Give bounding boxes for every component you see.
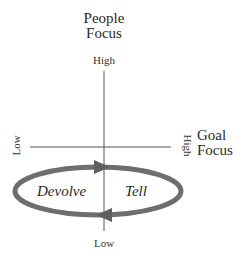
tell-label: Tell	[125, 184, 147, 199]
x-axis-low-label: Low	[11, 133, 22, 159]
y-axis-low-label: Low	[88, 238, 120, 249]
arrow-right-icon	[94, 160, 110, 174]
y-axis-title: People Focus	[64, 11, 144, 41]
y-axis-title-line2: Focus	[64, 26, 144, 41]
x-axis-title: Goal Focus	[197, 128, 233, 158]
y-axis-title-line1: People	[64, 11, 144, 26]
x-axis-high-label: High	[182, 131, 193, 161]
x-axis-title-line2: Focus	[197, 143, 233, 158]
y-axis-high-label: High	[88, 55, 120, 66]
x-axis-title-line1: Goal	[197, 128, 233, 143]
devolve-label: Devolve	[37, 184, 86, 199]
